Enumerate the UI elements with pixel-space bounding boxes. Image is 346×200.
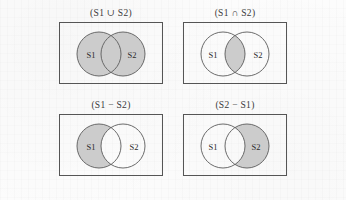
panel-caption-difference-s2-s1: (S2 − S1) — [215, 100, 254, 111]
venn-panel-union: (S1 ∪ S2) — [52, 8, 170, 98]
venn-figure: (S1 ∪ S2) — [0, 0, 346, 200]
shaded-region-right-only — [58, 21, 164, 85]
panel-caption-union: (S1 ∪ S2) — [90, 8, 132, 19]
set-label-s1: S1 — [87, 142, 96, 152]
venn-diagram-intersection: S1 S2 — [182, 21, 288, 85]
set-label-s2: S2 — [254, 50, 263, 60]
venn-diagram-difference-s2-s1: S1 S2 — [182, 113, 288, 177]
venn-diagram-difference-s1-s2: S1 S2 — [58, 113, 164, 177]
venn-diagram-union: S1 S2 — [58, 21, 164, 85]
venn-panel-intersection: (S1 ∩ S2) S1 S2 — [176, 8, 294, 98]
shaded-region-left-only — [58, 113, 164, 177]
set-label-s1: S1 — [87, 50, 96, 60]
venn-panel-difference-s1-s2: (S1 − S2) S1 S2 — [52, 100, 170, 190]
set-label-s2: S2 — [128, 50, 137, 60]
set-label-s1: S1 — [209, 142, 218, 152]
panel-caption-difference-s1-s2: (S1 − S2) — [91, 100, 130, 111]
shaded-region-right-only — [182, 113, 288, 177]
venn-panel-difference-s2-s1: (S2 − S1) S1 S2 — [176, 100, 294, 190]
set-label-s1: S1 — [209, 50, 218, 60]
venn-panel-grid: (S1 ∪ S2) — [0, 0, 346, 200]
set-label-s2: S2 — [130, 142, 139, 152]
panel-caption-intersection: (S1 ∩ S2) — [215, 8, 256, 19]
set-label-s2: S2 — [252, 142, 261, 152]
